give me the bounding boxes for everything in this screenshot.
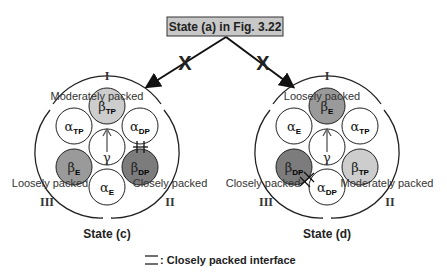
state-c-diagram: I II III βTP αTP αDP γ βE βDP αE Moderat… <box>12 69 208 241</box>
packing-label-II-d: Moderately packed <box>341 177 434 189</box>
subunit-alpha-tp-d <box>342 108 378 144</box>
header-title: State (a) in Fig. 3.22 <box>169 20 282 34</box>
state-c-title: State (c) <box>83 227 130 241</box>
numeral-III-c: III <box>40 195 54 209</box>
numeral-I-d: I <box>325 69 330 83</box>
legend-text: : Closely packed interface <box>160 254 296 266</box>
numeral-II-c: II <box>165 195 175 209</box>
header-box: State (a) in Fig. 3.22 <box>167 17 283 36</box>
label-gamma-c: γ <box>103 150 111 165</box>
packing-label-III-c: Loosely packed <box>12 177 88 189</box>
packing-label-II-c: Closely packed <box>133 177 208 189</box>
numeral-III-d: III <box>259 195 273 209</box>
state-d-title: State (d) <box>303 227 351 241</box>
packing-label-I-c: Moderately packed <box>51 90 144 102</box>
packing-label-I-d: Loosely packed <box>284 90 360 102</box>
numeral-I-c: I <box>105 69 110 83</box>
legend: : Closely packed interface <box>145 254 296 266</box>
numeral-II-d: II <box>385 195 395 209</box>
x-mark-d: X <box>256 52 270 74</box>
subunit-alpha-tp-c <box>56 108 92 144</box>
subunit-alpha-dp-c <box>122 108 158 144</box>
label-gamma-d: γ <box>323 150 331 165</box>
diagram-canvas: State (a) in Fig. 3.22 X X I II III <box>0 0 447 278</box>
x-mark-c: X <box>178 52 192 74</box>
arrow-to-state-c: X <box>148 37 226 86</box>
packing-label-III-d: Closely packed <box>226 177 301 189</box>
arrow-to-state-d: X <box>226 37 292 86</box>
state-d-diagram: I II III βE αE αTP γ βDP βTP αDP Loosely… <box>226 69 434 241</box>
